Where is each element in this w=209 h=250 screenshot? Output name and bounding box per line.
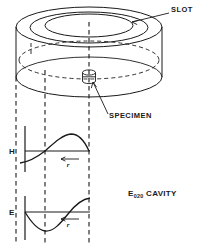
- h-field-plot: H r: [9, 126, 90, 172]
- h-radial-label: r: [67, 161, 70, 169]
- cavity-mode-label: E020 CAVITY: [128, 189, 177, 199]
- e-radial-arrow: [61, 217, 79, 221]
- cavity-label-suffix: CAVITY: [146, 189, 177, 198]
- slot-label: SLOT: [171, 5, 193, 14]
- e-field-plot: E r: [9, 196, 90, 240]
- e-axis-label: E: [9, 208, 15, 217]
- e-field-curve: [25, 198, 90, 231]
- specimen-annotation: SPECIMEN: [91, 82, 151, 120]
- h-axis-label: H: [9, 147, 15, 156]
- e-radial-label: r: [67, 221, 70, 229]
- slot-annotation: SLOT: [132, 5, 193, 25]
- h-radial-arrow: [61, 157, 79, 161]
- cavity-label-subscript: 020: [134, 193, 144, 199]
- svg-text:E020 CAVITY: E020 CAVITY: [128, 189, 177, 199]
- e020-cavity-figure: SLOT SPECIMEN H r E r E020 CAVITY: [0, 0, 209, 250]
- specimen-label: SPECIMEN: [109, 111, 152, 120]
- specimen-leader-line: [93, 82, 108, 114]
